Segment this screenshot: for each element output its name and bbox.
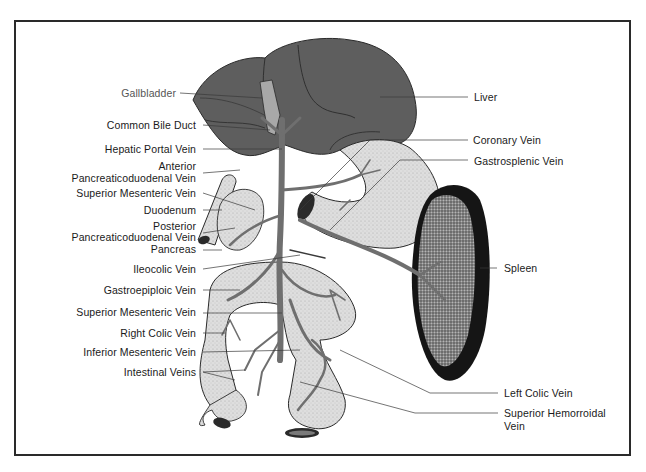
spleen-shape [412, 185, 490, 381]
label-left-colic-vein: Left Colic Vein [504, 387, 573, 399]
label-liver: Liver [474, 91, 497, 103]
label-ileocolic-vein: Ileocolic Vein [133, 263, 196, 275]
label-posterior-line2: Pancreaticoduodenal Vein [72, 231, 196, 243]
label-superior-mesenteric-vein-2: Superior Mesenteric Vein [76, 306, 196, 318]
label-hepatic-portal-vein: Hepatic Portal Vein [105, 143, 196, 155]
label-superior-mesenteric-vein-1: Superior Mesenteric Vein [76, 187, 196, 199]
pancreas-shape [217, 189, 264, 250]
label-spleen: Spleen [504, 262, 537, 274]
label-gastroepiploic-vein: Gastroepiploic Vein [104, 284, 196, 296]
label-anterior-line1: Anterior [158, 160, 196, 172]
label-right-colic-vein: Right Colic Vein [120, 327, 196, 339]
label-superior-hemorroidal-line1: Superior Hemorroidal [504, 407, 606, 419]
label-coronary-vein: Coronary Vein [473, 134, 541, 146]
label-inferior-mesenteric-vein: Inferior Mesenteric Vein [83, 346, 196, 358]
label-superior-hemorroidal-line2: Vein [504, 420, 525, 432]
label-gastrosplenic-vein: Gastrosplenic Vein [474, 155, 563, 167]
label-intestinal-veins: Intestinal Veins [124, 366, 196, 378]
label-gallbladder: Gallbladder [121, 87, 176, 99]
label-duodenum: Duodenum [144, 204, 196, 216]
label-pancreas: Pancreas [151, 243, 196, 255]
label-anterior-line2: Pancreaticoduodenal Vein [72, 172, 196, 184]
label-common-bile-duct: Common Bile Duct [107, 119, 196, 131]
